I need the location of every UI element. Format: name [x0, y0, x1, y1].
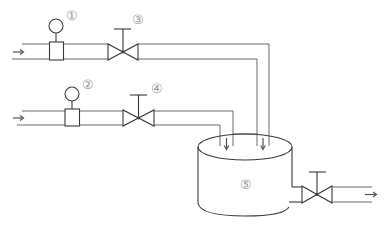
lower-inlet-arrow-icon	[13, 116, 24, 121]
label-gauge-2: ②	[82, 78, 94, 91]
label-tank-5: ⑤	[240, 178, 252, 191]
label-valve-4: ④	[151, 82, 163, 95]
tank-5	[198, 134, 292, 216]
valve-3	[108, 29, 138, 60]
valve-4	[123, 95, 154, 126]
diagram-canvas	[0, 0, 385, 233]
label-gauge-1: ①	[66, 9, 78, 22]
gauge-2	[65, 87, 80, 126]
outlet-valve	[302, 172, 332, 203]
tank-inlet-arrows-icon	[224, 138, 265, 150]
gauge-1	[49, 19, 64, 60]
outlet-arrow-icon	[365, 192, 377, 197]
process-diagram: ① ③ ② ④ ⑤	[0, 0, 385, 233]
upper-inlet-arrow-icon	[13, 50, 24, 55]
label-valve-3: ③	[132, 13, 144, 26]
